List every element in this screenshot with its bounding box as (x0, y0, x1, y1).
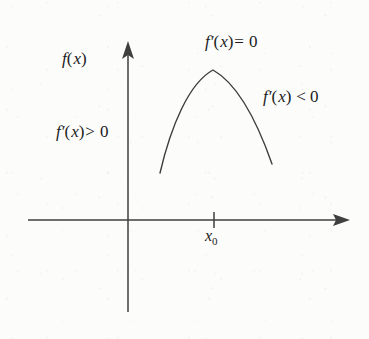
derivative-positive-x: x (71, 122, 79, 141)
derivative-zero-x: x (220, 32, 228, 51)
derivative-positive-value: 0 (100, 122, 109, 141)
figure-canvas: f(x) f′(x)=0 f′(x)<0 f′(x)>0 x0 (0, 0, 369, 339)
function-label-x: x (73, 49, 81, 68)
derivative-negative-label: f′(x)<0 (263, 88, 318, 105)
derivative-positive-paren-open: ( (64, 122, 70, 141)
x0-subscript: 0 (212, 235, 218, 247)
diagram-svg (0, 0, 369, 339)
derivative-negative-relation: < (296, 87, 306, 106)
derivative-positive-relation: > (85, 122, 95, 141)
derivative-negative-value: 0 (310, 87, 319, 106)
function-label-paren-close: ) (81, 49, 87, 68)
derivative-zero-paren-open: ( (213, 32, 219, 51)
derivative-zero-label: f′(x)=0 (205, 33, 257, 50)
derivative-zero-value: 0 (249, 32, 258, 51)
derivative-negative-paren-close: ) (286, 87, 292, 106)
derivative-positive-label: f′(x)>0 (56, 123, 108, 140)
derivative-positive-paren-close: ) (79, 122, 85, 141)
derivative-negative-x: x (278, 87, 286, 106)
function-label: f(x) (62, 50, 88, 67)
function-curve (160, 70, 272, 173)
derivative-negative-paren-open: ( (271, 87, 277, 106)
x0-label: x0 (205, 228, 218, 247)
derivative-zero-paren-close: ) (228, 32, 234, 51)
function-label-paren-open: ( (67, 49, 73, 68)
derivative-zero-relation: = (234, 32, 244, 51)
